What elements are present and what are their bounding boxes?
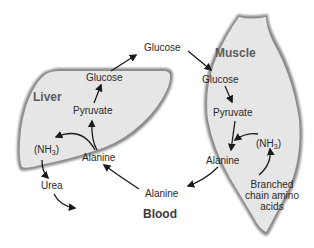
muscle-pyruvate-label: Pyruvate [213,107,252,118]
blood-glucose-label: Glucose [144,42,181,53]
arrow-muscle-alanine-to-blood [188,167,218,186]
muscle-bcaa-label: Branched chain amino acids [227,179,314,212]
arrow-urea-excretion [54,194,75,208]
arrow-blood-glucose-to-muscle [188,51,211,70]
liver-glucose-label: Glucose [86,72,123,83]
bcaa-line-1: Branched [227,179,314,190]
liver-urea-label: Urea [41,180,63,191]
muscle-nh3-label: (NH3) [256,138,281,149]
liver-pyruvate-label: Pyruvate [73,105,112,116]
bcaa-line-3: acids [227,201,314,212]
liver-label: Liver [33,90,62,104]
bcaa-line-2: chain amino [227,190,314,201]
arrow-blood-alanine-to-liver [104,165,139,189]
blood-alanine-label: Alanine [145,188,178,199]
blood-label: Blood [143,207,177,221]
muscle-label: Muscle [215,46,256,60]
liver-nh3-label: (NH3) [34,144,59,155]
liver-alanine-label: Alanine [82,152,115,163]
muscle-glucose-label: Glucose [202,74,239,85]
muscle-alanine-label: Alanine [206,155,239,166]
